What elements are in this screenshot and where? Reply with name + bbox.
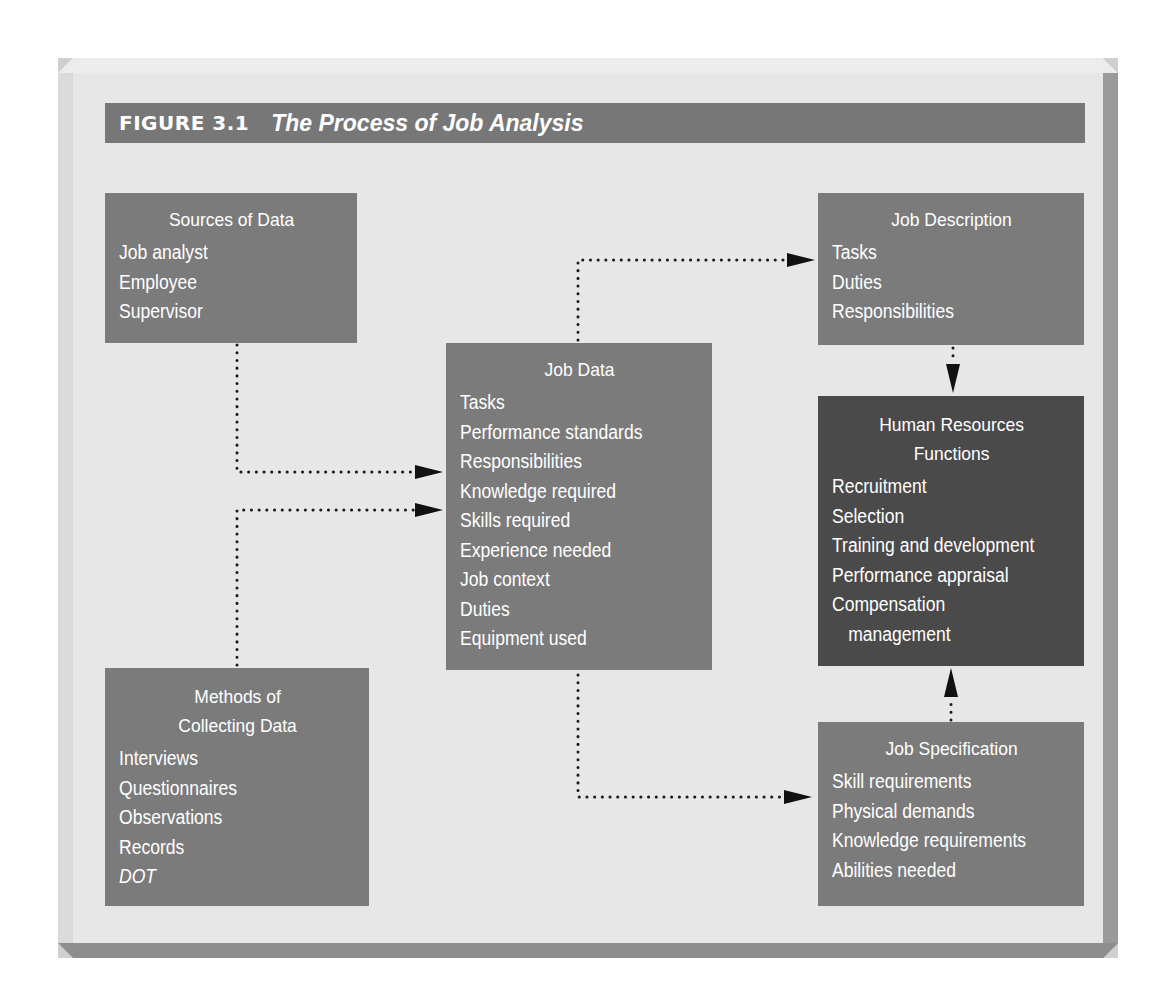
box-item-list: Tasks Performance standards Responsibili…	[460, 388, 712, 654]
list-item: Performance appraisal	[832, 561, 1059, 591]
box-item-list: Skill requirements Physical demands Know…	[832, 767, 1084, 885]
box-job-description: Job Description Tasks Duties Responsibil…	[818, 193, 1084, 345]
list-item: Duties	[832, 268, 1059, 298]
list-item: DOT	[119, 862, 344, 892]
list-item: Duties	[460, 595, 687, 625]
list-item: Job analyst	[119, 238, 333, 268]
box-item-list: Interviews Questionnaires Observations R…	[119, 744, 369, 892]
list-item: Abilities needed	[832, 856, 1059, 886]
list-item: Tasks	[460, 388, 687, 418]
list-item: Knowledge requirements	[832, 826, 1059, 856]
frame-bevel-top	[58, 58, 1118, 73]
list-item: Skills required	[460, 506, 687, 536]
box-title: Job Specification	[842, 736, 1074, 761]
list-item: Experience needed	[460, 536, 687, 566]
box-title-line: Collecting Data	[129, 711, 346, 740]
list-item: Employee	[119, 268, 333, 298]
list-item: Recruitment	[832, 472, 1059, 502]
box-sources-of-data: Sources of Data Job analyst Employee Sup…	[105, 193, 357, 343]
list-item: Compensation	[832, 590, 1059, 620]
box-job-specification: Job Specification Skill requirements Phy…	[818, 722, 1084, 906]
box-human-resources-functions: Human Resources Functions Recruitment Se…	[818, 396, 1084, 666]
list-item: Supervisor	[119, 297, 333, 327]
list-item: management	[832, 620, 1059, 650]
list-item: Interviews	[119, 744, 344, 774]
frame-bevel-right	[1103, 58, 1118, 958]
list-item: Physical demands	[832, 797, 1059, 827]
list-item: Performance standards	[460, 418, 687, 448]
box-title-line: Methods of	[129, 682, 346, 711]
frame-bevel-bottom	[58, 943, 1118, 958]
box-title-line: Human Resources	[842, 410, 1061, 439]
box-title: Methods of Collecting Data	[129, 682, 359, 740]
list-item: Responsibilities	[460, 447, 687, 477]
box-item-list: Recruitment Selection Training and devel…	[832, 472, 1084, 649]
box-item-list: Tasks Duties Responsibilities	[832, 238, 1084, 327]
list-item: Job context	[460, 565, 687, 595]
box-title: Human Resources Functions	[842, 410, 1074, 468]
figure-label: FIGURE 3.1	[119, 111, 249, 135]
figure-title-bar: FIGURE 3.1 The Process of Job Analysis	[105, 103, 1085, 143]
list-item: Training and development	[832, 531, 1059, 561]
box-job-data: Job Data Tasks Performance standards Res…	[446, 343, 712, 670]
list-item: Equipment used	[460, 624, 687, 654]
box-title-line: Functions	[842, 439, 1061, 468]
list-item: Records	[119, 833, 344, 863]
list-item: Observations	[119, 803, 344, 833]
figure-title: The Process of Job Analysis	[271, 110, 583, 137]
box-item-list: Job analyst Employee Supervisor	[119, 238, 357, 327]
list-item: Selection	[832, 502, 1059, 532]
frame-bevel-left	[58, 58, 73, 958]
box-title: Job Data	[470, 357, 702, 382]
box-title: Job Description	[842, 207, 1074, 232]
list-item: Questionnaires	[119, 774, 344, 804]
list-item: Knowledge required	[460, 477, 687, 507]
list-item: Tasks	[832, 238, 1059, 268]
box-methods-of-collecting-data: Methods of Collecting Data Interviews Qu…	[105, 668, 369, 906]
list-item: Skill requirements	[832, 767, 1059, 797]
box-title: Sources of Data	[129, 207, 348, 232]
list-item: Responsibilities	[832, 297, 1059, 327]
